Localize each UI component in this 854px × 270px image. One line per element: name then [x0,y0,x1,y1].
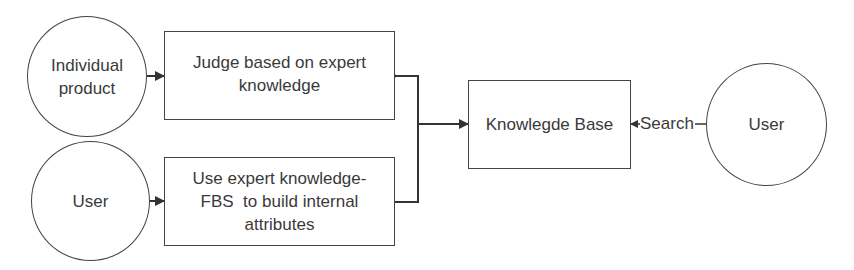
knowledge-base-label: Knowlegde Base [486,113,614,136]
merge-connector [394,76,418,202]
user-right-node: User [706,63,827,186]
user-left-label: User [73,190,109,213]
fbs-box: Use expert knowledge- FBS to build inter… [164,157,395,246]
judge-label-line1: Judge based on expert [193,51,366,74]
user-left-node: User [31,141,150,261]
search-edge-label: Search [640,114,694,134]
individual-product-label-line1: Individual [51,54,123,77]
individual-product-label-line2: product [51,77,123,100]
user-right-label: User [749,113,785,136]
judge-box: Judge based on expert knowledge [164,31,395,120]
fbs-label-line1: Use expert knowledge- [193,167,367,190]
fbs-label-line3: attributes [193,213,367,236]
individual-product-node: Individual product [27,16,147,137]
fbs-label-line2: FBS to build internal [193,190,367,213]
knowledge-base-box: Knowlegde Base [468,80,631,169]
judge-label-line2: knowledge [193,74,366,97]
